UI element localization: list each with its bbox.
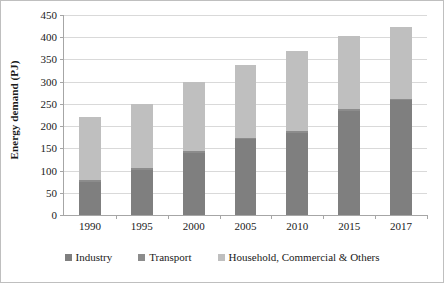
bar-segment xyxy=(235,139,257,215)
bar-2017[interactable] xyxy=(390,27,412,215)
x-axis-tick-label: 2010 xyxy=(271,220,323,232)
bar-segment xyxy=(79,117,101,180)
bar-segment xyxy=(338,111,360,215)
bar-segment xyxy=(79,182,101,215)
y-axis-tick-label: 100 xyxy=(41,166,58,176)
y-axis-tick-mark xyxy=(60,59,64,60)
x-axis-tick-mark xyxy=(220,215,221,219)
y-axis-tick-mark xyxy=(60,193,64,194)
plot-area: 1990199520002005201020152017 xyxy=(63,15,427,216)
legend-item[interactable]: Household, Commercial & Others xyxy=(218,251,380,263)
chart-legend: IndustryTransportHousehold, Commercial &… xyxy=(1,251,443,263)
bar-1990[interactable] xyxy=(79,117,101,215)
x-axis-tick-label: 2017 xyxy=(375,220,427,232)
x-axis-tick-label: 1995 xyxy=(116,220,168,232)
bar-segment xyxy=(286,51,308,132)
x-axis-tick-mark xyxy=(116,215,117,219)
gridline xyxy=(64,37,427,38)
bar-segment xyxy=(131,170,153,215)
x-axis-tick-mark xyxy=(427,215,428,219)
legend-swatch-icon xyxy=(138,254,145,261)
plot-area-wrapper: 050100150200250300350400450 199019952000… xyxy=(25,15,429,223)
y-axis-tick-label: 200 xyxy=(41,121,58,131)
x-axis-tick-label: 2005 xyxy=(220,220,272,232)
bar-2015[interactable] xyxy=(338,36,360,215)
y-axis-title-text: Energy demand (PJ) xyxy=(8,61,20,160)
energy-demand-chart: Energy demand (PJ) 050100150200250300350… xyxy=(0,0,444,283)
bar-2000[interactable] xyxy=(183,82,205,215)
x-axis-tick-label: 2000 xyxy=(168,220,220,232)
x-axis-tick-mark xyxy=(168,215,169,219)
y-axis-tick-mark xyxy=(60,15,64,16)
bar-2005[interactable] xyxy=(235,65,257,215)
legend-label: Household, Commercial & Others xyxy=(229,251,380,263)
legend-label: Transport xyxy=(149,251,191,263)
bar-segment xyxy=(390,27,412,99)
bar-segment xyxy=(286,133,308,215)
y-axis-tick-label: 450 xyxy=(41,10,58,20)
y-axis-tick-mark xyxy=(60,148,64,149)
legend-item[interactable]: Industry xyxy=(65,251,113,263)
gridline xyxy=(64,59,427,60)
y-axis-tick-mark xyxy=(60,126,64,127)
y-axis-tick-mark xyxy=(60,171,64,172)
x-axis-tick-label: 1990 xyxy=(64,220,116,232)
y-axis-tick-label: 50 xyxy=(46,188,57,198)
bar-2010[interactable] xyxy=(286,51,308,215)
legend-swatch-icon xyxy=(65,254,72,261)
y-axis-title: Energy demand (PJ) xyxy=(5,1,23,219)
gridline xyxy=(64,15,427,16)
legend-label: Industry xyxy=(76,251,113,263)
y-axis-tick-label: 250 xyxy=(41,99,58,109)
x-axis-tick-mark xyxy=(323,215,324,219)
y-axis-tick-label: 350 xyxy=(41,54,58,64)
y-axis-tick-label: 400 xyxy=(41,32,58,42)
x-axis-tick-label: 2015 xyxy=(323,220,375,232)
bar-segment xyxy=(235,65,257,138)
legend-item[interactable]: Transport xyxy=(138,251,191,263)
bar-1995[interactable] xyxy=(131,104,153,215)
bar-segment xyxy=(131,104,153,168)
y-axis-tick-label: 300 xyxy=(41,77,58,87)
y-axis-tick-mark xyxy=(60,215,64,216)
y-axis-tick-mark xyxy=(60,82,64,83)
y-axis-tick-label: 0 xyxy=(52,210,58,220)
y-axis-tick-mark xyxy=(60,104,64,105)
y-axis-tick-labels: 050100150200250300350400450 xyxy=(25,15,60,219)
bar-segment xyxy=(390,100,412,215)
x-axis-tick-mark xyxy=(375,215,376,219)
legend-swatch-icon xyxy=(218,254,225,261)
bar-segment xyxy=(183,82,205,152)
x-axis-tick-mark xyxy=(271,215,272,219)
y-axis-tick-label: 150 xyxy=(41,143,58,153)
bar-segment xyxy=(183,153,205,215)
bar-segment xyxy=(338,36,360,109)
y-axis-tick-mark xyxy=(60,37,64,38)
